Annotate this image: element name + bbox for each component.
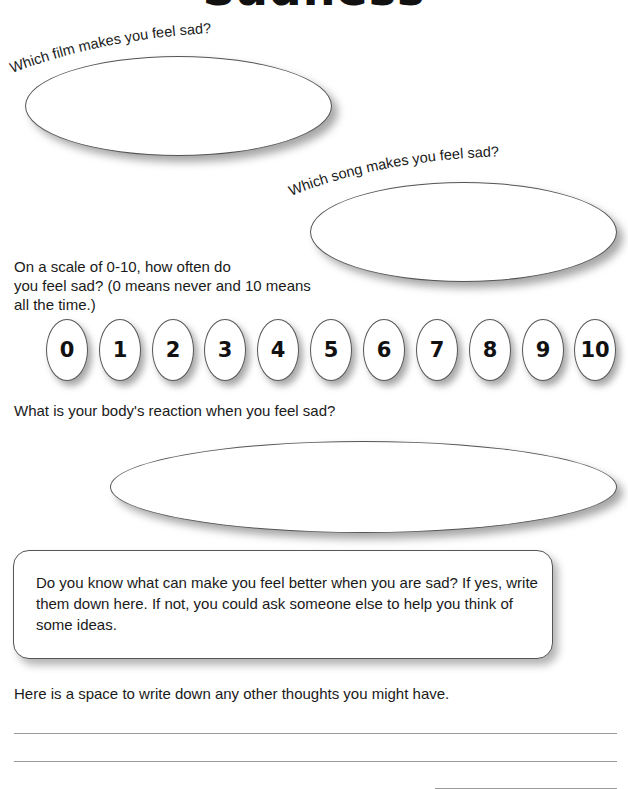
writing-line-1[interactable] bbox=[14, 733, 617, 734]
scale-option-5[interactable]: 5 bbox=[310, 319, 352, 381]
scale-question-line: On a scale of 0-10, how often do bbox=[14, 257, 334, 276]
scale-option-1[interactable]: 1 bbox=[99, 319, 141, 381]
writing-line-2[interactable] bbox=[14, 761, 617, 762]
feel-better-answer-box[interactable]: Do you know what can make you feel bette… bbox=[13, 550, 553, 659]
page-title: Sadness bbox=[0, 0, 628, 14]
other-thoughts-question: Here is a space to write down any other … bbox=[14, 684, 449, 703]
scale-option-6[interactable]: 6 bbox=[363, 319, 405, 381]
scale-question: On a scale of 0-10, how often do you fee… bbox=[14, 257, 334, 314]
feel-better-question: Do you know what can make you feel bette… bbox=[36, 572, 541, 635]
scale-option-9[interactable]: 9 bbox=[522, 319, 564, 381]
scale-option-2[interactable]: 2 bbox=[152, 319, 194, 381]
song-answer-field[interactable] bbox=[310, 182, 617, 282]
scale-option-7[interactable]: 7 bbox=[416, 319, 458, 381]
scale-option-8[interactable]: 8 bbox=[469, 319, 511, 381]
scale-option-10[interactable]: 10 bbox=[574, 319, 616, 381]
scale-option-0[interactable]: 0 bbox=[46, 319, 88, 381]
body-reaction-answer-field[interactable] bbox=[110, 441, 617, 533]
scale-question-line: you feel sad? (0 means never and 10 mean… bbox=[14, 276, 334, 295]
body-reaction-question: What is your body's reaction when you fe… bbox=[14, 401, 335, 420]
scale-option-4[interactable]: 4 bbox=[257, 319, 299, 381]
scale-option-3[interactable]: 3 bbox=[204, 319, 246, 381]
scale-question-line: all the time.) bbox=[14, 295, 334, 314]
